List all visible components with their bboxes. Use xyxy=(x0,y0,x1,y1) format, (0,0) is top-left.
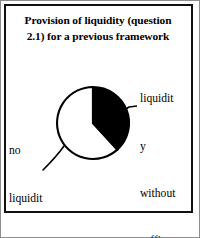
pie-label-right-line-3: without xyxy=(140,186,175,202)
pie-label-left-line-1: no xyxy=(9,143,44,159)
pie-label-right: liquidit y without suffi- cient colla- t… xyxy=(140,60,175,238)
pie-label-left-line-2: liquidit xyxy=(9,191,44,207)
pie-label-right-line-4: suffi- xyxy=(140,233,175,238)
figure-container: Provision of liquidity (question 2.1) fo… xyxy=(0,0,200,238)
pie-label-right-line-2: y xyxy=(140,139,175,155)
leader-line-left xyxy=(43,146,64,170)
pie-label-left: no liquidit y without suffi- cient colla… xyxy=(9,112,44,238)
pie-label-right-line-1: liquidit xyxy=(140,91,175,107)
